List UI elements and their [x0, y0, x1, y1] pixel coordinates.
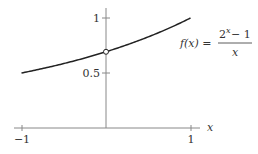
formula-numerator-base: 2 [219, 28, 226, 41]
function-formula: f(x) = 2 x − 1 x [179, 26, 252, 59]
x-axis-label: x [207, 121, 214, 134]
y-tick-label-1: 1 [93, 12, 100, 25]
x-tick-label-neg1: −1 [14, 133, 30, 146]
formula-lhs: f(x) = [179, 37, 212, 50]
formula-numerator-rest: − 1 [231, 28, 251, 41]
function-plot: −1 1 1 0.5 x f(x) = 2 x − 1 x [0, 0, 258, 154]
open-circle-marker [104, 49, 109, 54]
y-tick-label-05: 0.5 [83, 67, 101, 80]
formula-denominator: x [232, 46, 239, 59]
x-tick-label-pos1: 1 [188, 133, 195, 146]
